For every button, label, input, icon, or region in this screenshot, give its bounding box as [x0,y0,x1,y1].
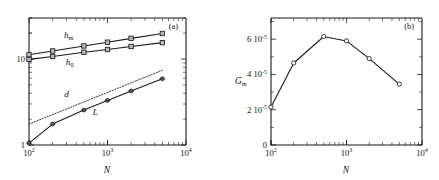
y-tick-label: 4 10-5 [247,69,267,80]
data-point [292,61,296,65]
data-point [160,31,164,35]
x-tick-label: 103 [341,147,353,158]
data-point [105,40,109,44]
data-point [367,56,371,60]
data-point [82,44,86,48]
panel-a-curve-labels: hmh0dL [64,30,98,117]
data-point [50,54,54,58]
y-tick-label: 0 [263,140,267,150]
data-point [82,50,86,54]
panel-a-markers [26,31,165,145]
data-point [50,49,54,53]
panel-b-plot: 10210310402 10-54 10-56 10-5 N Gm (b) [219,0,439,180]
x-tick-label: 103 [102,147,114,158]
panel-b-tag: (b) [404,22,414,31]
y-tick-label: 6 10-5 [247,34,267,45]
figure-container: 102103104110 hmh0dL N (a) 10210310402 10… [0,0,439,180]
series-G_m [271,37,399,108]
panel-b: 10210310402 10-54 10-56 10-5 N Gm (b) [219,0,439,180]
panel-a-x-axis-title: N [103,165,111,175]
y-tick-label: 10 [16,54,25,64]
curve-label-d: d [64,89,69,99]
y-tick-label: 1 [21,140,25,150]
panel-a-tag: (a) [169,22,179,31]
x-tick-label: 104 [416,147,428,158]
data-point [160,40,164,44]
data-point [27,57,31,61]
panel-b-curves [271,37,399,108]
data-point [129,36,133,40]
data-point [27,53,31,57]
panel-b-axes [271,18,422,145]
panel-b-y-axis-title: Gm [235,76,247,87]
panel-a: 102103104110 hmh0dL N (a) [0,0,219,180]
curve-label-L: L [92,107,98,117]
series-h_m [29,34,162,55]
data-point [129,44,133,48]
data-point [344,39,348,43]
panel-a-plot: 102103104110 hmh0dL N (a) [0,0,219,180]
data-point [322,34,326,38]
panel-b-tick-labels: 10210310402 10-54 10-56 10-5 [247,34,428,158]
x-tick-label: 104 [180,147,192,158]
curve-label-h_m: hm [64,30,74,41]
curve-label-h_0: h0 [66,57,74,68]
data-point [397,82,401,86]
panel-b-ticks [271,18,422,145]
panel-b-x-axis-title: N [342,165,350,175]
y-tick-label: 2 10-5 [247,104,267,115]
panel-a-curves [29,34,162,144]
data-point [269,105,273,109]
data-point [105,47,109,51]
